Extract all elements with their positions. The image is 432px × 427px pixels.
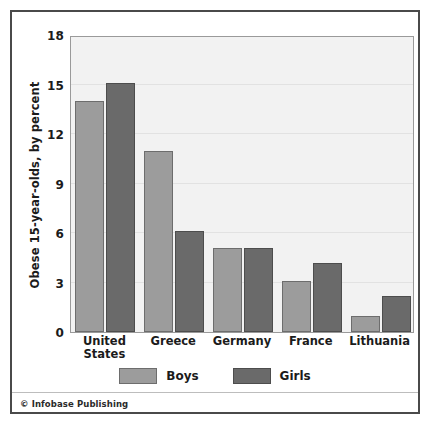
footer-divider xyxy=(12,392,418,393)
legend-item-boys: Boys xyxy=(119,368,198,384)
x-label-line: Lithuania xyxy=(349,334,410,348)
copyright-credit: © Infobase Publishing xyxy=(20,399,128,409)
x-label-line: United xyxy=(83,334,126,348)
bar-girls xyxy=(244,248,273,332)
x-label-line: France xyxy=(289,334,332,348)
x-label-france: France xyxy=(289,335,332,348)
x-label-line: States xyxy=(83,348,126,361)
bar-girls xyxy=(313,263,342,332)
legend-label-girls: Girls xyxy=(280,369,311,383)
bar-boys xyxy=(213,248,242,332)
bar-boys xyxy=(75,101,104,332)
y-tick-label: 12 xyxy=(47,128,64,142)
legend-swatch-boys xyxy=(119,368,157,384)
y-tick-label: 15 xyxy=(47,79,64,93)
y-tick-label: 18 xyxy=(47,29,64,43)
x-label-germany: Germany xyxy=(213,335,271,348)
legend-item-girls: Girls xyxy=(233,368,311,384)
y-tick-label: 3 xyxy=(55,277,64,291)
plot-area xyxy=(70,36,414,333)
legend-label-boys: Boys xyxy=(166,369,198,383)
bar-boys xyxy=(144,151,173,333)
chart-figure: Obese 15-year-olds, by percent 036912151… xyxy=(10,10,420,414)
y-tick-label: 6 xyxy=(55,227,64,241)
bar-boys xyxy=(351,316,380,333)
x-axis-category-labels: UnitedStatesGreeceGermanyFranceLithuania xyxy=(70,335,414,371)
x-label-united-states: UnitedStates xyxy=(83,335,126,361)
bar-girls xyxy=(382,296,411,332)
y-tick-label: 0 xyxy=(55,326,64,340)
legend-swatch-girls xyxy=(233,368,271,384)
bar-series-container xyxy=(71,37,413,332)
y-axis-tick-labels: 0369121518 xyxy=(12,12,70,412)
bar-girls xyxy=(175,231,204,332)
x-label-line: Germany xyxy=(213,334,271,348)
bar-girls xyxy=(106,83,135,332)
y-tick-label: 9 xyxy=(55,178,64,192)
chart-legend: BoysGirls xyxy=(12,368,418,384)
x-label-greece: Greece xyxy=(151,335,196,348)
bar-boys xyxy=(282,281,311,332)
x-label-lithuania: Lithuania xyxy=(349,335,410,348)
x-label-line: Greece xyxy=(151,334,196,348)
